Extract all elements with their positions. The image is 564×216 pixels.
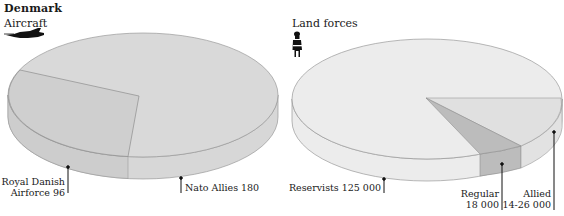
jet-aircraft-icon: [4, 28, 44, 38]
label-allied-line2: 14-26 000: [502, 199, 551, 210]
land-pie: [292, 39, 562, 181]
label-regular: Regular 18 000: [461, 188, 499, 210]
label-royal-danish-line2: Airforce 96: [2, 187, 65, 198]
label-regular-line1: Regular: [461, 188, 499, 199]
label-allied: Allied 14-26 000: [502, 188, 551, 210]
label-nato-allies: Nato Allies 180: [185, 182, 259, 193]
label-reservists: Reservists 125 000: [289, 182, 381, 193]
label-allied-line1: Allied: [502, 188, 551, 199]
label-regular-line2: 18 000: [461, 199, 499, 210]
label-royal-danish: Royal Danish Airforce 96: [2, 176, 65, 198]
pie-charts-graphic: [0, 0, 564, 216]
label-royal-danish-line1: Royal Danish: [2, 176, 65, 187]
soldier-icon: [293, 32, 303, 58]
aircraft-pie: [8, 33, 278, 179]
